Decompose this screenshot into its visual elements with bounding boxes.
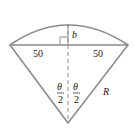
left-half-chord-label: 50 bbox=[33, 48, 43, 59]
right-half-angle-denominator: 2 bbox=[74, 94, 79, 105]
right-half-angle-numerator: θ bbox=[73, 81, 78, 92]
left-half-angle-numerator: θ bbox=[57, 81, 62, 92]
right-half-chord-label: 50 bbox=[93, 48, 103, 59]
radius-label: R bbox=[102, 86, 109, 97]
sector-outline bbox=[10, 25, 128, 123]
sagitta-label: b bbox=[72, 29, 77, 40]
sector-diagram: b 50 50 θ 2 θ 2 R bbox=[0, 0, 135, 137]
left-half-angle-denominator: 2 bbox=[58, 94, 63, 105]
